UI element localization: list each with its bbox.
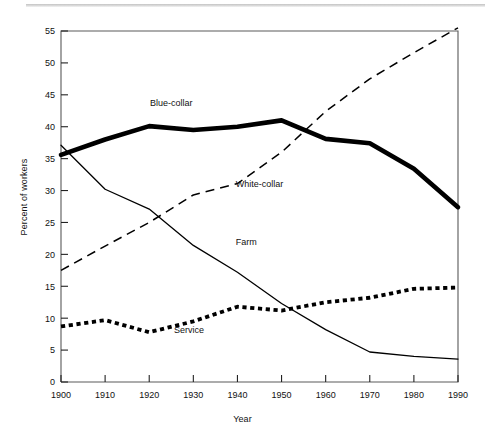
x-tick-label: 1910 (95, 390, 115, 400)
series-label-blue-collar: Blue-collar (150, 98, 193, 108)
series-line-white-collar (61, 28, 458, 271)
x-tick-label: 1920 (139, 390, 159, 400)
y-tick-label: 50 (45, 58, 55, 68)
x-tick-label: 1950 (272, 390, 292, 400)
x-tick-label: 1940 (227, 390, 247, 400)
y-tick-label: 10 (45, 314, 55, 324)
y-tick-label: 40 (45, 122, 55, 132)
x-tick-label: 1980 (404, 390, 424, 400)
y-axis-ticks: 0510152025303540455055 (45, 26, 68, 387)
series-label-service: Service (174, 325, 204, 335)
series-line-farm (61, 145, 458, 359)
series-label-white-collar: White-collar (236, 179, 284, 189)
y-tick-label: 5 (50, 345, 55, 355)
plot-frame (61, 31, 458, 382)
y-tick-label: 0 (50, 377, 55, 387)
y-tick-label: 30 (45, 186, 55, 196)
y-axis-title: Percent of workers (19, 127, 29, 267)
series-inline-labels: Blue-collarWhite-collarFarmService (150, 98, 283, 335)
chart-figure: 0510152025303540455055 19001910192019301… (0, 0, 485, 435)
y-tick-label: 45 (45, 90, 55, 100)
x-tick-label: 1990 (448, 390, 468, 400)
series-line-blue-collar (61, 120, 458, 207)
x-tick-label: 1970 (360, 390, 380, 400)
y-tick-label: 15 (45, 282, 55, 292)
y-tick-label: 20 (45, 250, 55, 260)
line-chart-plot: 0510152025303540455055 19001910192019301… (0, 0, 485, 435)
x-axis-ticks: 1900191019201930194019501960197019801990 (51, 375, 468, 400)
x-tick-label: 1960 (316, 390, 336, 400)
x-tick-label: 1900 (51, 390, 71, 400)
y-tick-label: 55 (45, 26, 55, 36)
x-axis-title: Year (0, 414, 485, 424)
y-tick-label: 35 (45, 154, 55, 164)
series-line-service (61, 288, 458, 333)
x-tick-label: 1930 (183, 390, 203, 400)
series-label-farm: Farm (236, 237, 257, 247)
y-tick-label: 25 (45, 218, 55, 228)
series-lines (61, 28, 458, 359)
